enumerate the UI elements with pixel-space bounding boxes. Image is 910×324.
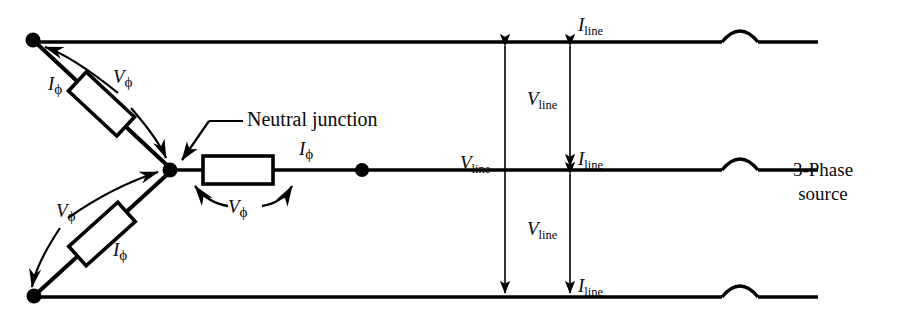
label-i-line-c: Iline	[578, 275, 603, 300]
label-v-phase-lower: Vϕ	[56, 200, 76, 225]
neutral-junction-leader	[182, 121, 243, 160]
label-v-line-outer: Vline	[460, 152, 490, 177]
circuit-schematic	[0, 0, 910, 324]
source-line-1: 3-Phase	[783, 158, 863, 182]
node-terminal-b	[355, 163, 369, 177]
source-line-2: source	[783, 182, 863, 206]
label-v-line-ab: Vline	[527, 88, 557, 113]
label-i-line-a: Iline	[578, 14, 603, 39]
label-v-phase-upper: Vϕ	[113, 66, 133, 91]
label-neutral-junction: Neutral junction	[247, 108, 378, 131]
node-terminal-c	[27, 289, 42, 304]
node-terminal-a	[26, 33, 41, 48]
label-i-phase-lower: Iϕ	[113, 239, 127, 264]
branch-lower	[34, 172, 170, 296]
resistor-middle	[203, 156, 273, 184]
branch-upper	[33, 40, 170, 168]
label-i-line-b: Iline	[578, 148, 603, 173]
node-neutral-junction	[163, 163, 178, 178]
label-i-phase-upper: Iϕ	[48, 73, 62, 98]
line-c-conductor	[34, 286, 818, 297]
label-v-line-bc: Vline	[527, 218, 557, 243]
label-v-phase-middle: Vϕ	[228, 196, 248, 221]
figure-canvas: Iϕ Vϕ Neutral junction Iϕ Vϕ Vϕ Iϕ Iline…	[0, 0, 910, 324]
label-i-phase-middle: Iϕ	[299, 138, 313, 163]
line-a-conductor	[33, 31, 818, 42]
label-three-phase-source: 3-Phase source	[783, 158, 863, 206]
